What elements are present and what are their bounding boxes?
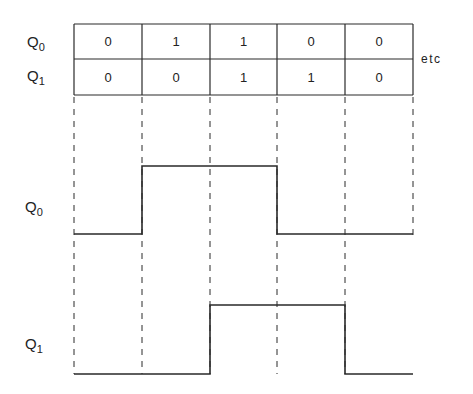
table-row-label-q0: Q0 [27, 33, 45, 53]
dashed-time-guides [74, 97, 413, 374]
waveform-label-q1: Q1 [25, 335, 43, 355]
continuation-label: etc [421, 52, 442, 66]
table-cell: 0 [74, 24, 142, 59]
table-cell: 0 [277, 24, 345, 59]
table-cell: 1 [277, 60, 345, 95]
waveform-label-q0: Q0 [25, 198, 43, 218]
table-cell: 0 [142, 60, 210, 95]
q1-waveform [74, 305, 413, 374]
table-cell: 1 [210, 24, 277, 59]
table-cell: 1 [142, 24, 210, 59]
table-cell: 0 [345, 60, 413, 95]
table-cell: 0 [345, 24, 413, 59]
table-cell: 0 [74, 60, 142, 95]
table-row-label-q1: Q1 [27, 67, 45, 87]
table-cell: 1 [210, 60, 277, 95]
q0-waveform [74, 166, 413, 234]
